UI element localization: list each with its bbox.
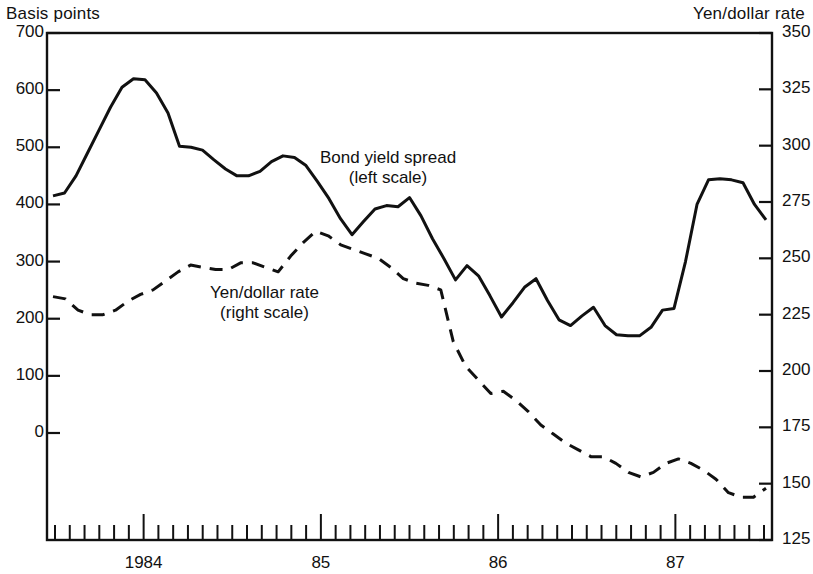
right-tick-label: 125 <box>782 529 813 549</box>
right-tick-label: 275 <box>782 191 813 211</box>
chart-figure: Basis points Yen/dollar rate 70060050040… <box>0 0 813 574</box>
right-tick-label: 200 <box>782 360 813 380</box>
yen-annotation-line1: Yen/dollar rate <box>210 283 319 303</box>
yen-dollar-rate-annotation: Yen/dollar rate (right scale) <box>210 283 319 323</box>
left-tick-label: 500 <box>0 136 44 156</box>
bond-annotation-line2: (left scale) <box>320 168 456 188</box>
left-tick-label: 200 <box>0 308 44 328</box>
right-tick-label: 325 <box>782 78 813 98</box>
x-tick-label: 85 <box>286 553 356 573</box>
left-tick-label: 400 <box>0 193 44 213</box>
yen-dollar-rate-line <box>53 231 766 497</box>
bond-yield-spread-annotation: Bond yield spread (left scale) <box>320 148 456 188</box>
right-tick-label: 225 <box>782 304 813 324</box>
left-tick-label: 300 <box>0 251 44 271</box>
left-tick-label: 0 <box>0 422 44 442</box>
x-tick-label: 86 <box>463 553 533 573</box>
x-tick-label: 1984 <box>109 553 179 573</box>
right-tick-label: 350 <box>782 22 813 42</box>
yen-annotation-line2: (right scale) <box>210 303 319 323</box>
x-tick-label: 87 <box>640 553 710 573</box>
bond-annotation-line1: Bond yield spread <box>320 148 456 168</box>
right-tick-label: 175 <box>782 416 813 436</box>
right-tick-label: 150 <box>782 473 813 493</box>
right-tick-label: 300 <box>782 135 813 155</box>
left-tick-label: 100 <box>0 365 44 385</box>
left-tick-label: 600 <box>0 79 44 99</box>
right-tick-label: 250 <box>782 247 813 267</box>
plot-canvas <box>0 0 813 574</box>
bond-yield-spread-line <box>53 79 766 336</box>
left-tick-label: 700 <box>0 22 44 42</box>
